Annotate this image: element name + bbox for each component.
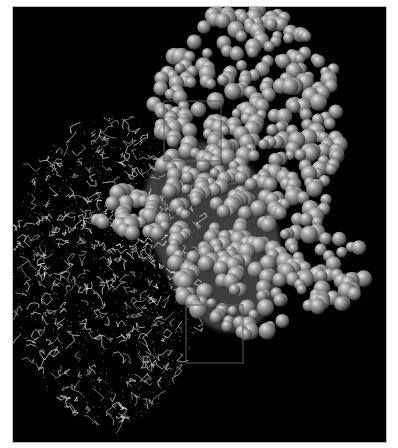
- molecule-render-panel: [12, 6, 387, 443]
- molecule-scene: [13, 7, 387, 443]
